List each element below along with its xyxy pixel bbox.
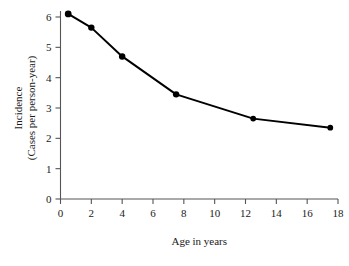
x-axis-tick-label: 8 [181,207,187,219]
tick-labels-group: 0123456024681012141618 [46,11,344,219]
x-axis-tick-label: 16 [302,207,314,219]
y-axis-tick-label: 3 [46,102,52,114]
x-axis-tick-label: 14 [271,207,283,219]
y-axis-tick-label: 2 [46,132,52,144]
chart-container: 0123456024681012141618 0.5, 6.12, 5.654,… [0,0,349,266]
data-point-marker: 2, 5.65 [88,24,94,30]
axes-group [61,11,339,199]
ticks-group [56,17,339,204]
data-point-marker: 4, 4.7 [119,53,125,59]
line-chart: 0123456024681012141618 0.5, 6.12, 5.654,… [0,0,349,266]
x-axis-title: Age in years [171,235,227,247]
y-axis-tick-label: 6 [46,11,52,23]
x-axis-tick-label: 4 [119,207,125,219]
x-axis-tick-label: 10 [209,207,221,219]
y-axis-title-line-1: Incidence [12,87,24,130]
y-axis-tick-label: 4 [46,72,52,84]
x-axis-tick-label: 6 [150,207,156,219]
data-point-marker: 7.5, 3.45 [173,91,179,97]
data-point-marker: 17.5, 2.35 [327,125,333,131]
x-axis-tick-label: 0 [58,207,64,219]
x-axis-tick-label: 2 [89,207,95,219]
data-series-group: 0.5, 6.12, 5.654, 4.77.5, 3.4512.5, 2.65… [65,11,333,131]
x-axis-tick-label: 12 [240,207,251,219]
x-axis-tick-label: 18 [333,207,345,219]
data-point-marker: 12.5, 2.65 [250,116,256,122]
data-point-marker: 0.5, 6.1 [65,11,72,18]
y-axis-tick-label: 1 [46,163,52,175]
y-axis-tick-label: 5 [46,41,52,53]
y-axis-title-line-2: (Cases per person-year) [25,55,38,160]
series-line-incidence [68,14,330,128]
y-axis-tick-label: 0 [46,193,52,205]
